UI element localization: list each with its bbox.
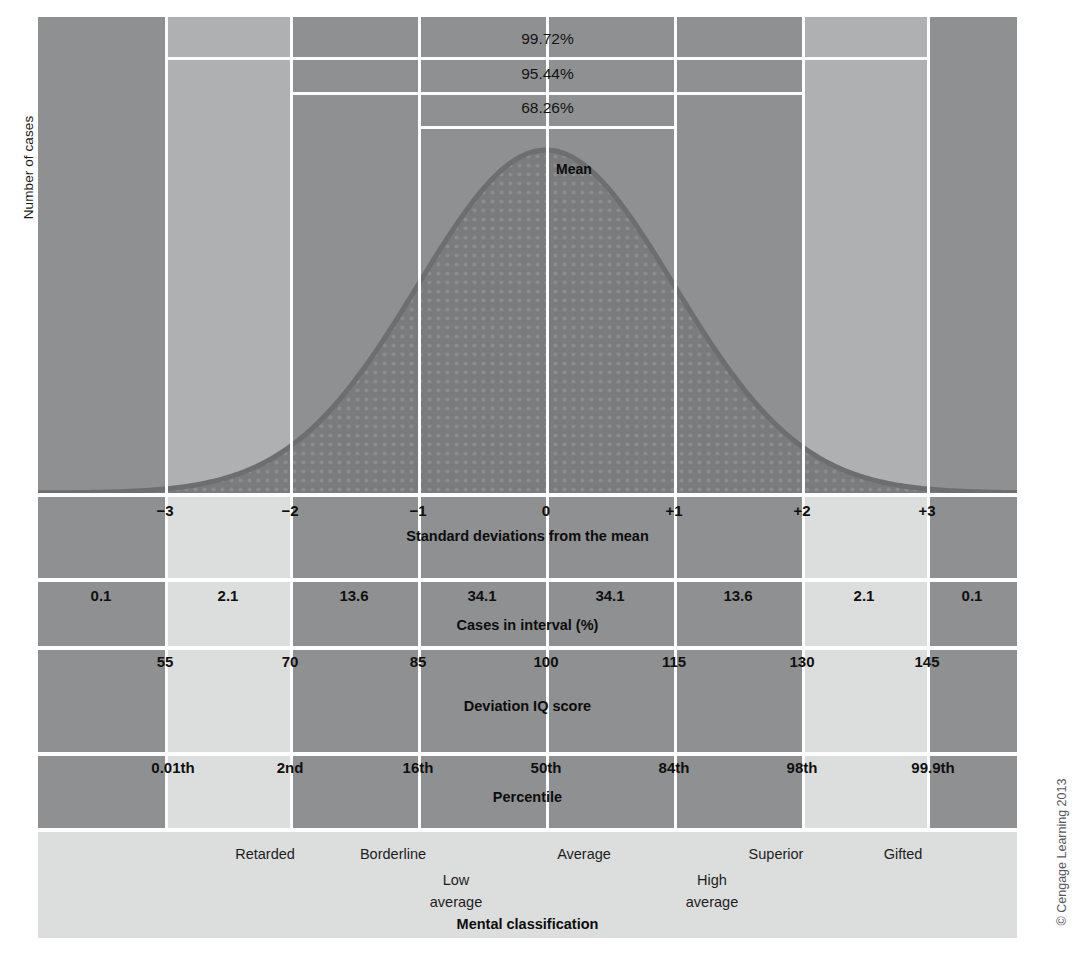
classification-label: Gifted (884, 845, 923, 865)
bracket-label-99-72: 99.72% (165, 30, 930, 48)
interval-percent: 13.6 (723, 587, 752, 604)
bracket-label-95-44: 95.44% (290, 65, 805, 83)
iq-score: 115 (662, 653, 686, 670)
classification-label: Average (557, 845, 611, 865)
percentile-tick: 0.01th (151, 759, 194, 776)
interval-percent: 0.1 (962, 587, 983, 604)
row-title-deviation-iq-score: Deviation IQ score (38, 698, 1017, 714)
interval-percent: 34.1 (467, 587, 496, 604)
sd-tick: −1 (409, 502, 426, 519)
sd-tick: +1 (665, 502, 682, 519)
divider (418, 582, 421, 646)
percentile-tick: 84th (659, 759, 690, 776)
iq-score: 145 (914, 653, 939, 670)
iq-score: 70 (282, 653, 299, 670)
classification-label: Retarded (235, 845, 295, 865)
interval-percent: 2.1 (854, 587, 875, 604)
percentile-tick: 16th (403, 759, 434, 776)
iq-score: 85 (410, 653, 427, 670)
iq-score: 100 (533, 653, 558, 670)
row-percentile: 0.01th 2nd 16th 50th 84th 98th 99.9th Pe… (38, 756, 1017, 828)
interval-percent: 0.1 (91, 587, 112, 604)
classification-label: Low (443, 871, 470, 891)
copyright-notice: © Cengage Learning 2013 (1055, 762, 1069, 942)
chart-area: Mean 99.72% 95.44% 68.26% −3 (38, 17, 1017, 938)
row-title-percentile: Percentile (38, 789, 1017, 805)
sd-tick: 0 (542, 502, 550, 519)
bracket-68-26 (418, 126, 677, 493)
sd-tick: +3 (918, 502, 935, 519)
classification-label: average (430, 893, 482, 913)
divider (674, 582, 677, 646)
figure-normal-distribution: Number of cases © Cengage Learning 2013 (0, 0, 1081, 958)
percentile-tick: 98th (787, 759, 818, 776)
iq-score: 55 (157, 653, 174, 670)
classification-label: Superior (749, 845, 804, 865)
percentile-tick: 99.9th (911, 759, 954, 776)
row-title-mental-classification: Mental classification (38, 916, 1017, 932)
classification-label: average (686, 893, 738, 913)
sd-tick: −2 (281, 502, 298, 519)
divider (165, 582, 168, 646)
sd-tick: +2 (793, 502, 810, 519)
row-mental-classification: Retarded Borderline Low average Average … (38, 832, 1017, 938)
row-deviation-iq-score: 55 70 85 100 115 130 145 Deviation IQ sc… (38, 650, 1017, 752)
divider (546, 582, 549, 646)
classification-label: Borderline (360, 845, 426, 865)
row-title-cases-in-interval: Cases in interval (%) (38, 617, 1017, 633)
row-title-standard-deviations: Standard deviations from the mean (38, 528, 1017, 544)
interval-percent: 34.1 (595, 587, 624, 604)
percentile-tick: 50th (531, 759, 562, 776)
row-cases-in-interval: 0.1 2.1 13.6 34.1 34.1 13.6 2.1 0.1 Case… (38, 582, 1017, 646)
percentile-tick: 2nd (277, 759, 304, 776)
row-standard-deviations: −3 −2 −1 0 +1 +2 +3 Standard deviations … (38, 497, 1017, 578)
y-axis-label: Number of cases (21, 78, 36, 258)
interval-percent: 13.6 (339, 587, 368, 604)
divider (290, 582, 293, 646)
divider (927, 582, 930, 646)
bracket-label-68-26: 68.26% (418, 99, 677, 117)
interval-percent: 2.1 (218, 587, 239, 604)
divider (802, 582, 805, 646)
iq-score: 130 (789, 653, 814, 670)
sd-tick: −3 (156, 502, 173, 519)
classification-label: High (697, 871, 727, 891)
